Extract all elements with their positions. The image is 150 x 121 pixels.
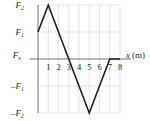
y-axis-title-Fx: Fx xyxy=(12,50,22,61)
x-tick-label-5: 5 xyxy=(87,62,91,72)
y-tick-label-neg-F2: –F2 xyxy=(10,108,24,119)
x-axis-unit: (m) xyxy=(132,50,145,60)
x-axis-title: x xyxy=(125,50,130,60)
x-tick-label-2: 2 xyxy=(56,62,60,72)
x-tick-labels: 1 2 3 4 5 6 7 8 xyxy=(46,62,122,72)
x-tick-label-1: 1 xyxy=(46,62,50,72)
x-tick-label-4: 4 xyxy=(77,62,82,72)
plot-area: F2 F1 Fx –F1 –F2 1 2 3 4 5 6 7 8 x (m) xyxy=(0,0,150,121)
x-tick-label-6: 6 xyxy=(97,62,101,72)
y-tick-labels: F2 F1 Fx –F1 –F2 xyxy=(10,0,24,119)
x-tick-label-3: 3 xyxy=(67,62,71,72)
y-tick-label-F1: F1 xyxy=(15,27,25,38)
x-tick-label-8: 8 xyxy=(118,62,122,72)
y-tick-label-F2: F2 xyxy=(15,0,25,11)
force-position-graph-figure: F2 F1 Fx –F1 –F2 1 2 3 4 5 6 7 8 x (m) xyxy=(0,0,150,121)
y-tick-label-neg-F1: –F1 xyxy=(10,81,24,92)
x-tick-label-7: 7 xyxy=(108,62,112,72)
